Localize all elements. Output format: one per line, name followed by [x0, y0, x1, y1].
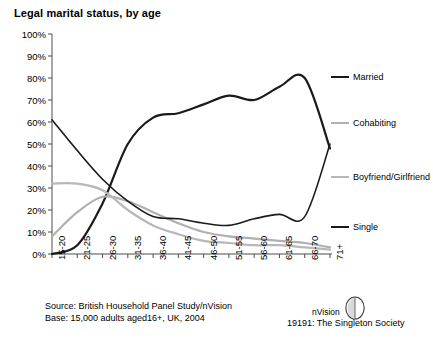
legend-label: Single — [353, 222, 378, 232]
x-tick-label: 66-70 — [309, 236, 320, 260]
x-tick-label: 71+ — [334, 244, 345, 260]
y-axis-ticks — [48, 34, 52, 254]
legend-label: Married — [353, 72, 384, 82]
y-tick-label: 20% — [2, 205, 46, 216]
y-tick-label: 50% — [2, 139, 46, 150]
y-tick-label: 40% — [2, 161, 46, 172]
x-tick-label: 46-50 — [208, 236, 219, 260]
legend-swatch-icon — [331, 122, 349, 124]
x-tick-label: 41-45 — [182, 236, 193, 260]
x-tick-label: 15-20 — [56, 236, 67, 260]
x-tick-label: 56-60 — [258, 236, 269, 260]
y-tick-label: 80% — [2, 73, 46, 84]
source-note: Source: British Household Panel Study/nV… — [45, 300, 232, 312]
x-tick-label: 31-35 — [132, 236, 143, 260]
y-tick-label: 100% — [2, 29, 46, 40]
x-tick-label: 26-30 — [107, 236, 118, 260]
x-tick-label: 61-65 — [283, 236, 294, 260]
y-tick-label: 70% — [2, 95, 46, 106]
x-tick-label: 51-55 — [233, 236, 244, 260]
legend-label: Cohabiting — [353, 118, 396, 128]
legend-label: Boyfriend/Girlfriend — [353, 172, 430, 182]
y-tick-label: 30% — [2, 183, 46, 194]
y-tick-label: 0% — [2, 249, 46, 260]
data-series-layer — [52, 75, 330, 254]
y-tick-label: 60% — [2, 117, 46, 128]
brand-name: nVision — [312, 307, 340, 317]
legend-swatch-icon — [331, 176, 349, 178]
y-tick-label: 90% — [2, 51, 46, 62]
y-tick-label: 10% — [2, 227, 46, 238]
legend-item-single[interactable]: Single — [331, 222, 378, 232]
legend-swatch-icon — [331, 226, 349, 228]
legend-swatch-icon — [331, 76, 349, 78]
legend-item-married[interactable]: Married — [331, 72, 384, 82]
legend-item-cohabiting[interactable]: Cohabiting — [331, 118, 396, 128]
chart-container: Legal marital status, by age 0%10%20%30%… — [0, 0, 433, 346]
nvision-logo-icon — [344, 296, 366, 320]
x-tick-label: 21-25 — [81, 236, 92, 260]
brand-caption: 19191: The Singleton Society — [287, 318, 404, 328]
base-note: Base: 15,000 adults aged16+, UK, 2004 — [45, 312, 205, 324]
legend-item-boyfriend-girlfriend[interactable]: Boyfriend/Girlfriend — [331, 172, 430, 182]
x-tick-label: 36-40 — [157, 236, 168, 260]
